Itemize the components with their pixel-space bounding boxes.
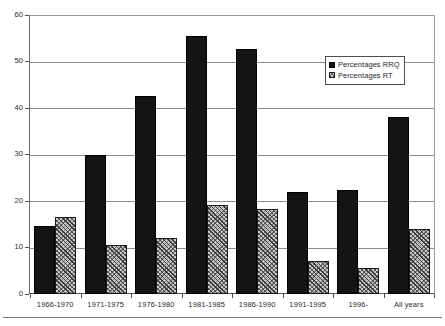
bar-chart-figure: 60 50 40 30 20 10 0 1966-19701971-197519… — [0, 0, 445, 326]
bar-percentages-rrq — [85, 155, 106, 294]
bar-percentages-rt — [308, 261, 329, 294]
bar-percentages-rrq — [186, 36, 207, 294]
bar-percentages-rt — [55, 217, 76, 294]
x-axis-label-1966-1970: 1966-1970 — [30, 300, 81, 309]
bar-percentages-rrq — [388, 117, 409, 294]
y-axis-label-50: 50 — [3, 57, 23, 65]
y-axis-label-0: 0 — [3, 290, 23, 298]
x-axis-label-1986-1990: 1986-1990 — [232, 300, 283, 309]
y-axis-label-10: 10 — [3, 243, 23, 251]
x-tick-mark — [283, 294, 284, 298]
y-axis-label-40: 40 — [3, 104, 23, 112]
bar-percentages-rrq — [287, 192, 308, 294]
bar-percentages-rrq — [34, 226, 55, 294]
x-tick-mark — [182, 294, 183, 298]
legend-label-rrq: Percentages RRQ — [338, 60, 400, 69]
x-tick-mark — [333, 294, 334, 298]
legend-label-rt: Percentages RT — [338, 71, 393, 80]
legend-swatch-hatch-icon — [329, 72, 335, 78]
y-tick-mark-40 — [25, 108, 29, 109]
y-tick-mark-20 — [25, 201, 29, 202]
bar-percentages-rt — [358, 268, 379, 294]
y-tick-mark-60 — [25, 15, 29, 16]
bar-group — [30, 16, 81, 294]
legend-item-rrq: Percentages RRQ — [329, 60, 400, 70]
x-tick-mark — [384, 294, 385, 298]
y-axis-label-30: 30 — [3, 150, 23, 158]
y-axis-label-20: 20 — [3, 197, 23, 205]
x-axis-label-1976-1980: 1976-1980 — [131, 300, 182, 309]
legend-item-rt: Percentages RT — [329, 70, 400, 80]
bar-percentages-rt — [106, 245, 127, 294]
x-axis-label-1991-1995: 1991-1995 — [283, 300, 334, 309]
x-tick-mark — [81, 294, 82, 298]
x-tick-mark — [131, 294, 132, 298]
bar-percentages-rrq — [337, 190, 358, 294]
bar-percentages-rt — [156, 238, 177, 294]
legend-swatch-solid-icon — [329, 62, 335, 68]
x-tick-mark — [30, 294, 31, 298]
footer-divider — [3, 317, 442, 318]
bar-percentages-rrq — [236, 49, 257, 294]
bar-percentages-rt — [207, 205, 228, 294]
bar-group — [232, 16, 283, 294]
bar-group — [81, 16, 132, 294]
x-axis-label-1981-1985: 1981-1985 — [182, 300, 233, 309]
bar-percentages-rt — [257, 209, 278, 294]
y-axis-label-60: 60 — [3, 11, 23, 19]
y-tick-mark-30 — [25, 154, 29, 155]
x-axis-label-1971-1975: 1971-1975 — [81, 300, 132, 309]
bar-percentages-rt — [409, 229, 430, 294]
x-axis-label-1996-: 1996- — [333, 300, 384, 309]
bar-group — [131, 16, 182, 294]
bar-percentages-rrq — [135, 96, 156, 294]
x-tick-mark — [434, 294, 435, 298]
y-tick-mark-0 — [25, 294, 29, 295]
y-tick-mark-50 — [25, 61, 29, 62]
bar-group — [182, 16, 233, 294]
x-tick-mark — [232, 294, 233, 298]
x-axis-label-all-years: All years — [384, 300, 435, 309]
y-tick-mark-10 — [25, 247, 29, 248]
chart-legend: Percentages RRQ Percentages RT — [325, 56, 405, 85]
